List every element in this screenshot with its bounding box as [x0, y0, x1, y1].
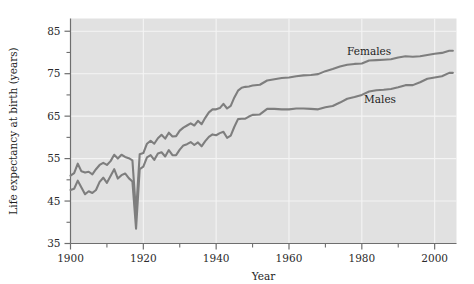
x-tick-label: 1980: [348, 252, 375, 264]
x-tick-label: 1940: [203, 252, 230, 264]
series-annotation-females: Females: [347, 45, 391, 57]
y-tick-label: 85: [47, 25, 60, 37]
y-tick-label: 75: [47, 67, 60, 79]
y-tick-label: 35: [47, 237, 60, 249]
y-tick-label: 65: [47, 110, 60, 122]
y-tick-label: 45: [47, 195, 60, 207]
chart-canvas: 190019201940196019802000 354555657585 Fe…: [0, 0, 474, 284]
plot-background-group: [71, 19, 457, 244]
series-annotation-males: Males: [364, 93, 396, 105]
y-axis-title: Life expectancy at birth (years): [7, 47, 19, 214]
x-tick-label: 1900: [57, 252, 84, 264]
y-tick-label: 55: [47, 152, 60, 164]
life-expectancy-chart: 190019201940196019802000 354555657585 Fe…: [0, 0, 474, 284]
x-tick-label: 2000: [421, 252, 448, 264]
y-axis-tick-labels: 354555657585: [47, 25, 60, 249]
x-axis-tick-labels: 190019201940196019802000: [57, 252, 448, 264]
x-tick-label: 1920: [130, 252, 157, 264]
x-axis-title: Year: [251, 270, 276, 282]
x-tick-label: 1960: [276, 252, 303, 264]
plot-area-background: [71, 19, 457, 244]
